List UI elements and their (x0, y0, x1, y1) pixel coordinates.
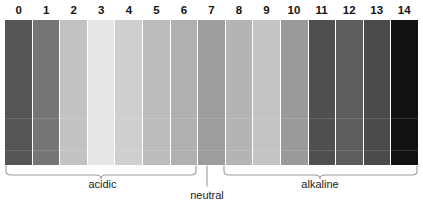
ph-band-13 (364, 20, 392, 165)
ph-scale-figure: 01234567891011121314 acidic neutral alka… (0, 0, 423, 204)
ph-band-4 (115, 20, 143, 165)
ph-band-14 (391, 20, 418, 165)
ph-number-14: 14 (390, 1, 418, 19)
ph-number-12: 12 (335, 1, 363, 19)
ph-number-row: 01234567891011121314 (5, 1, 418, 19)
ph-band-7 (198, 20, 226, 165)
ph-number-4: 4 (115, 1, 143, 19)
ph-number-6: 6 (170, 1, 198, 19)
ph-number-11: 11 (308, 1, 336, 19)
neutral-region-label: neutral (176, 189, 238, 201)
ph-band-8 (226, 20, 254, 165)
ph-number-3: 3 (88, 1, 116, 19)
ph-number-9: 9 (253, 1, 281, 19)
ph-color-strip (5, 20, 418, 165)
ph-band-0 (5, 20, 33, 165)
ph-band-1 (33, 20, 61, 165)
ph-number-2: 2 (60, 1, 88, 19)
ph-region-annotations: acidic neutral alkaline (0, 165, 423, 204)
ph-band-5 (143, 20, 171, 165)
ph-band-9 (253, 20, 281, 165)
ph-band-10 (281, 20, 309, 165)
ph-number-0: 0 (5, 1, 33, 19)
ph-band-11 (309, 20, 337, 165)
ph-number-5: 5 (143, 1, 171, 19)
acidic-region-label: acidic (0, 178, 205, 190)
ph-number-1: 1 (33, 1, 61, 19)
ph-number-8: 8 (225, 1, 253, 19)
ph-number-13: 13 (363, 1, 391, 19)
ph-number-7: 7 (198, 1, 226, 19)
ph-number-10: 10 (280, 1, 308, 19)
ph-band-2 (60, 20, 88, 165)
ph-band-12 (336, 20, 364, 165)
alkaline-region-label: alkaline (222, 178, 418, 190)
ph-band-6 (171, 20, 199, 165)
ph-band-3 (88, 20, 116, 165)
